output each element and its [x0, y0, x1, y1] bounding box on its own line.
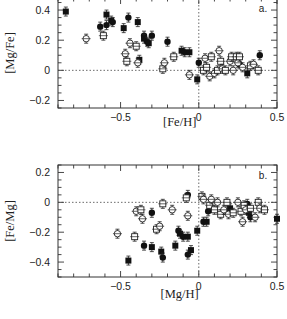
x-tick-label: 0.5	[270, 111, 285, 123]
filled-marker	[204, 217, 210, 226]
x-tick-label: −0.5	[110, 111, 131, 123]
open-marker	[222, 198, 231, 207]
y-tick-label: −0.2	[29, 226, 50, 238]
open-marker	[132, 42, 141, 51]
filled-marker	[125, 256, 131, 265]
x-tick-label: −0.5	[110, 280, 131, 292]
y-tick-label: −0.4	[29, 256, 50, 268]
x-tick-label: 0.5	[270, 280, 285, 292]
y-tick-label: −0.2	[29, 94, 50, 106]
panel-label: a.	[259, 3, 267, 14]
filled-marker	[63, 7, 69, 16]
open-marker	[235, 52, 244, 61]
filled-marker	[125, 13, 131, 22]
panel-b: −0.500.5−0.4−0.200.2[Mg/H][Fe/Mg]b.	[3, 165, 284, 301]
open-marker	[138, 214, 147, 223]
filled-marker	[149, 208, 155, 217]
open-marker	[168, 205, 177, 214]
open-marker	[251, 213, 260, 222]
open-marker	[221, 66, 230, 75]
open-marker	[238, 217, 247, 226]
filled-marker	[194, 75, 200, 84]
x-tick-label: 0	[196, 111, 202, 123]
filled-marker	[186, 48, 192, 57]
x-axis-label: [Mg/H]	[161, 287, 199, 301]
y-tick-label: 0.2	[35, 34, 50, 46]
panel-a: −0.500.5−0.200.20.4[Fe/H][Mg/Fe]a.	[3, 0, 284, 129]
y-tick-label: 0.4	[35, 4, 50, 16]
y-axis-label: [Fe/Mg]	[3, 200, 17, 242]
open-marker	[99, 31, 108, 40]
filled-marker	[121, 24, 127, 33]
open-marker	[182, 193, 191, 202]
open-marker	[136, 205, 145, 214]
open-marker	[207, 52, 216, 61]
y-axis-label: [Mg/Fe]	[3, 32, 17, 74]
filled-marker	[194, 226, 200, 235]
filled-marker	[135, 18, 141, 27]
open-marker	[158, 199, 167, 208]
filled-marker	[172, 241, 178, 250]
y-tick-label: 0.2	[35, 166, 50, 178]
y-tick-label: 0	[44, 196, 50, 208]
filled-marker	[274, 214, 280, 223]
open-marker	[202, 63, 211, 72]
filled-marker	[196, 58, 202, 67]
figure: −0.500.5−0.200.20.4[Fe/H][Mg/Fe]a. −0.50…	[0, 0, 287, 319]
open-marker	[122, 57, 131, 66]
open-marker	[260, 205, 269, 214]
open-marker	[254, 66, 263, 75]
plot-frame	[58, 0, 277, 108]
y-tick-label: 0	[44, 64, 50, 76]
filled-marker	[185, 232, 191, 241]
filled-marker	[97, 22, 103, 31]
panel-label: b.	[259, 170, 267, 181]
open-marker	[113, 229, 122, 238]
filled-marker	[141, 241, 147, 250]
filled-marker	[149, 243, 155, 252]
open-marker	[183, 211, 192, 220]
filled-marker	[257, 51, 263, 60]
open-marker	[185, 70, 194, 79]
open-marker	[215, 46, 224, 55]
open-marker	[130, 232, 139, 241]
open-marker	[169, 52, 178, 61]
open-marker	[82, 34, 91, 43]
open-marker	[246, 204, 255, 213]
filled-marker	[164, 37, 170, 46]
open-marker	[229, 208, 238, 217]
x-axis-label: [Fe/H]	[163, 115, 196, 129]
